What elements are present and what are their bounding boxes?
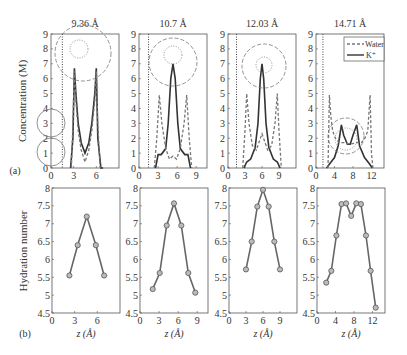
- data-point-marker: [93, 243, 98, 248]
- y-tick-label: 7: [222, 218, 227, 229]
- data-point-marker: [363, 233, 368, 238]
- data-point-marker: [157, 270, 162, 275]
- y-axis-label-concentration: Concentration (M): [16, 60, 29, 143]
- y-tick-label: 3: [308, 118, 313, 129]
- data-point-marker: [150, 286, 155, 291]
- y-tick-label: 8: [43, 43, 48, 54]
- panel-title: 10.7 Å: [159, 18, 187, 29]
- outer-shell-circle: [55, 25, 111, 81]
- y-tick-label: 6: [45, 254, 50, 265]
- y-tick-label: 7.5: [38, 200, 51, 211]
- y-tick-label: 6: [133, 254, 138, 265]
- y-tick-label: 9: [43, 29, 48, 40]
- y-tick-label: 4: [308, 103, 313, 114]
- x-tick-label: 6: [94, 170, 99, 181]
- x-tick-label: 9: [278, 315, 283, 326]
- data-point-marker: [255, 204, 260, 209]
- y-tick-label: 7.5: [215, 200, 228, 211]
- axes-frame: [52, 188, 120, 313]
- data-point-marker: [368, 268, 373, 273]
- y-tick-label: 7: [131, 58, 136, 69]
- water-line: [154, 95, 191, 168]
- hydration-line: [69, 217, 104, 276]
- y-axis-label-hydration: Hydration number: [17, 210, 29, 291]
- x-tick-label: 4: [333, 315, 338, 326]
- water-line: [243, 94, 282, 168]
- figure: 9.36 Å012345678903610.7 Å012345678903691…: [0, 0, 407, 355]
- x-tick-label: 3: [72, 315, 77, 326]
- y-tick-label: 5: [131, 88, 136, 99]
- data-point-marker: [179, 223, 184, 228]
- y-tick-label: 4.5: [215, 308, 228, 319]
- y-tick-label: 4.5: [303, 308, 316, 319]
- panel-title: 14.71 Å: [334, 18, 367, 29]
- data-point-marker: [102, 273, 107, 278]
- x-tick-label: 0: [226, 170, 231, 181]
- x-tick-label: 0: [137, 170, 142, 181]
- data-point-marker: [349, 213, 354, 218]
- y-tick-label: 5: [133, 290, 138, 301]
- axes-frame: [229, 188, 297, 313]
- inner-shell-circle: [70, 40, 88, 58]
- hydration-panel-4: 4.555.566.577.5804812z (Å): [303, 183, 386, 341]
- panel-title: 12.03 Å: [246, 18, 279, 29]
- y-tick-label: 5: [220, 88, 225, 99]
- inner-shell-circle: [164, 46, 182, 64]
- panel-b-label: (b): [19, 328, 31, 340]
- y-tick-label: 8: [310, 183, 315, 194]
- y-tick-label: 2: [308, 133, 313, 144]
- k-line: [327, 125, 373, 168]
- x-axis-label: z (Å): [340, 328, 361, 340]
- y-tick-label: 6: [43, 73, 48, 84]
- x-tick-label: 6: [261, 315, 266, 326]
- y-tick-label: 3: [131, 118, 136, 129]
- concentration-panel-3: 12.03 Å01234567890369: [220, 18, 296, 181]
- y-tick-label: 7: [310, 218, 315, 229]
- y-tick-label: 6: [222, 254, 227, 265]
- x-tick-label: 0: [50, 315, 55, 326]
- x-tick-label: 3: [243, 170, 248, 181]
- y-tick-label: 2: [131, 133, 136, 144]
- x-tick-label: 9: [277, 170, 282, 181]
- data-point-marker: [186, 270, 191, 275]
- y-tick-label: 6: [131, 73, 136, 84]
- data-point-marker: [84, 214, 89, 219]
- x-tick-label: 0: [314, 170, 319, 181]
- y-tick-label: 9: [220, 29, 225, 40]
- y-tick-label: 1: [308, 148, 313, 159]
- legend: WaterK⁺: [344, 37, 384, 61]
- y-tick-label: 7: [220, 58, 225, 69]
- y-tick-label: 7: [43, 58, 48, 69]
- hydration-line: [153, 203, 196, 292]
- x-tick-label: 0: [49, 170, 54, 181]
- y-tick-label: 7.5: [303, 200, 316, 211]
- x-tick-label: 12: [366, 170, 376, 181]
- x-tick-label: 8: [351, 315, 356, 326]
- data-point-marker: [67, 273, 72, 278]
- water-line: [71, 71, 100, 168]
- concentration-panel-2: 10.7 Å01234567890369: [131, 18, 207, 181]
- y-tick-label: 0: [220, 163, 225, 174]
- y-tick-label: 3: [220, 118, 225, 129]
- y-tick-label: 8: [222, 183, 227, 194]
- axes-frame: [228, 34, 296, 168]
- x-tick-label: 6: [260, 170, 265, 181]
- hydration-line: [246, 190, 280, 270]
- y-tick-label: 8: [220, 43, 225, 54]
- x-tick-label: 9: [195, 315, 200, 326]
- y-tick-label: 4.5: [126, 308, 139, 319]
- y-tick-label: 5: [308, 88, 313, 99]
- data-point-marker: [193, 290, 198, 295]
- data-point-marker: [260, 187, 265, 192]
- x-tick-label: 0: [315, 315, 320, 326]
- y-tick-label: 7: [133, 218, 138, 229]
- y-tick-label: 6: [220, 73, 225, 84]
- x-tick-label: 6: [175, 170, 180, 181]
- x-tick-label: 8: [350, 170, 355, 181]
- y-tick-label: 0: [131, 163, 136, 174]
- y-tick-label: 7: [45, 218, 50, 229]
- x-tick-label: 4: [332, 170, 337, 181]
- data-point-marker: [243, 267, 248, 272]
- axes-frame: [317, 188, 385, 313]
- y-tick-label: 9: [308, 29, 313, 40]
